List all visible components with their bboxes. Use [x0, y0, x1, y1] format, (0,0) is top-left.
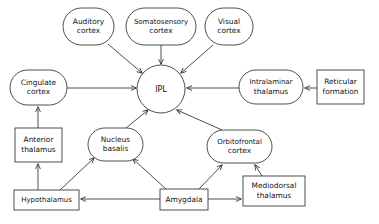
diagram-canvas: AuditorycortexSomatosensorycortexVisualc… [0, 0, 379, 224]
node-label-visual_cortex: Visual [218, 17, 240, 26]
node-nucleus_basalis[interactable]: Nucleusbasalis [88, 128, 143, 161]
node-intralaminar_thalamus[interactable]: Intralaminarthalamus [239, 70, 303, 104]
node-label-visual_cortex: cortex [217, 26, 241, 35]
node-label-anterior_thalamus: thalamus [21, 145, 56, 154]
node-mediodorsal_thalamus[interactable]: Mediodorsalthalamus [243, 176, 305, 206]
node-label-intralaminar_thalamus: thalamus [254, 87, 289, 96]
node-label-auditory_cortex: Auditory [73, 17, 105, 26]
edge-mediodorsal-to-orbito [255, 165, 262, 176]
node-label-nucleus_basalis: Nucleus [101, 135, 131, 144]
node-ipl[interactable]: IPL [137, 65, 185, 113]
node-label-reticular_formation: formation [323, 87, 359, 96]
connectivity-diagram: AuditorycortexSomatosensorycortexVisualc… [0, 0, 379, 224]
node-label-mediodorsal_thalamus: thalamus [257, 191, 292, 200]
node-label-mediodorsal_thalamus: Mediodorsal [252, 181, 297, 190]
node-label-ipl: IPL [155, 85, 167, 94]
node-cingulate_cortex[interactable]: Cingulatecortex [10, 70, 67, 105]
node-orbitofrontal_cortex[interactable]: Orbitofrontalcortex [207, 130, 272, 163]
node-label-auditory_cortex: cortex [77, 26, 101, 35]
node-visual_cortex[interactable]: Visualcortex [205, 8, 253, 45]
edge-amygdala-to-orbito [199, 165, 222, 189]
node-hypothalamus[interactable]: Hypothalamus [14, 190, 79, 210]
node-label-orbitofrontal_cortex: Orbitofrontal [217, 138, 262, 146]
node-label-nucleus_basalis: basalis [103, 144, 129, 153]
node-auditory_cortex[interactable]: Auditorycortex [63, 8, 114, 45]
node-label-cingulate_cortex: Cingulate [21, 78, 57, 87]
edge-hypothal-to-nucleus [60, 158, 94, 190]
node-somatosensory_cortex[interactable]: Somatosensorycortex [126, 8, 196, 45]
node-label-intralaminar_thalamus: Intralaminar [249, 78, 292, 86]
nodes-layer: AuditorycortexSomatosensorycortexVisualc… [10, 8, 364, 210]
node-label-somatosensory_cortex: Somatosensory [134, 18, 188, 26]
node-anterior_thalamus[interactable]: Anteriorthalamus [15, 128, 62, 162]
node-amygdala[interactable]: Amygdala [160, 189, 208, 210]
node-label-amygdala: Amygdala [165, 195, 202, 204]
node-label-reticular_formation: Reticular [324, 77, 358, 86]
node-label-cingulate_cortex: cortex [27, 87, 51, 96]
edge-visual-to-ipl [181, 45, 213, 73]
edge-auditory-to-ipl [108, 44, 142, 73]
node-label-orbitofrontal_cortex: cortex [228, 146, 252, 155]
node-reticular_formation[interactable]: Reticularformation [317, 70, 364, 104]
edge-amygdala-to-nucleus [133, 159, 166, 189]
node-label-anterior_thalamus: Anterior [24, 135, 55, 144]
node-label-hypothalamus: Hypothalamus [21, 196, 72, 204]
node-label-somatosensory_cortex: cortex [149, 26, 173, 35]
edge-nucleus-to-ipl [126, 110, 148, 128]
edge-orbitofrontal-to-ipl [177, 110, 222, 130]
